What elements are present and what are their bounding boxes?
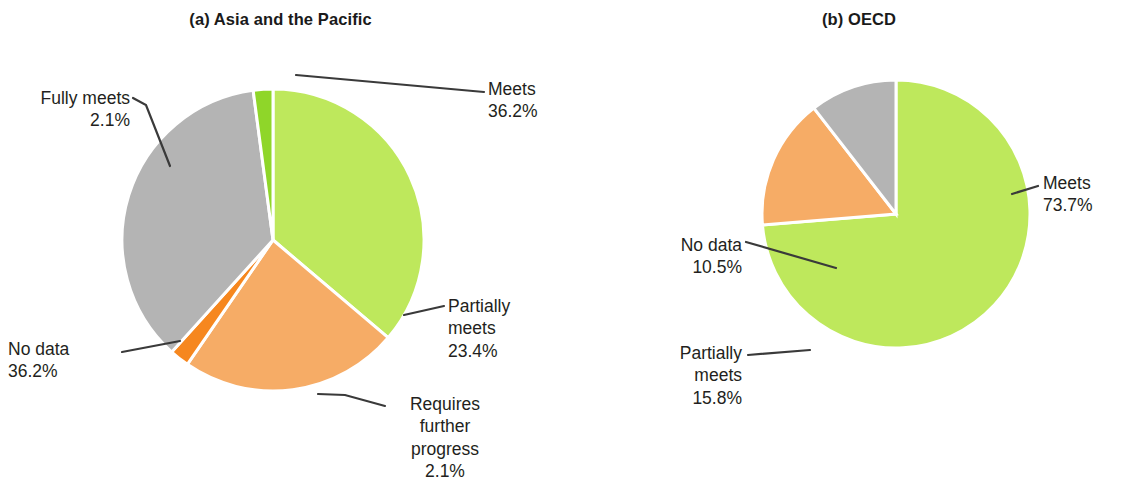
leader-line-a-requires [318, 394, 385, 406]
callout-a-no-data: No data 36.2% [8, 338, 118, 383]
callout-a-requires-label2: further [389, 415, 501, 437]
callout-b-meets-value: 73.7% [1043, 194, 1093, 216]
callout-a-partially-meets: Partially meets 23.4% [448, 295, 510, 362]
callout-a-fully-meets: Fully meets 2.1% [4, 87, 130, 132]
callout-b-no-data: No data 10.5% [638, 234, 742, 279]
callout-a-requires-label1: Requires [389, 393, 501, 415]
leader-line-a-meets [296, 75, 484, 92]
callout-b-partially-meets: Partially meets 15.8% [626, 342, 742, 409]
callout-a-meets-value: 36.2% [488, 100, 538, 122]
callout-b-partially-meets-value: 15.8% [626, 387, 742, 409]
callout-a-partially-meets-label1: Partially [448, 295, 510, 317]
callout-a-no-data-value: 36.2% [8, 360, 118, 382]
leader-line-a-partially [404, 306, 444, 315]
callout-a-no-data-label: No data [8, 338, 118, 360]
callout-a-requires-further-progress: Requires further progress 2.1% [389, 393, 501, 483]
callout-b-no-data-value: 10.5% [638, 256, 742, 278]
callout-a-fully-meets-value: 2.1% [4, 109, 130, 131]
callout-b-no-data-label: No data [638, 234, 742, 256]
callout-a-partially-meets-label2: meets [448, 317, 510, 339]
callout-a-partially-meets-value: 23.4% [448, 340, 510, 362]
figure-two-pie-charts: (a) Asia and the Pacific Meets 36.2% Ful… [0, 0, 1143, 489]
callout-a-fully-meets-label: Fully meets [4, 87, 130, 109]
callout-a-requires-value: 2.1% [389, 460, 501, 482]
callout-b-meets: Meets 73.7% [1043, 172, 1093, 217]
callout-b-partially-meets-label2: meets [626, 364, 742, 386]
callout-a-meets: Meets 36.2% [488, 78, 538, 123]
callout-b-meets-label: Meets [1043, 172, 1093, 194]
callout-a-requires-label3: progress [389, 438, 501, 460]
callout-b-partially-meets-label1: Partially [626, 342, 742, 364]
pie-a-slices [122, 89, 424, 391]
callout-a-meets-label: Meets [488, 78, 538, 100]
panel-b-title: (b) OECD [573, 10, 1143, 29]
